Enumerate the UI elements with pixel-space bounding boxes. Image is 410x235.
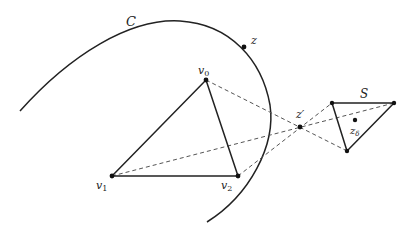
point-z-prime <box>298 125 303 130</box>
dashed-ray-v1 <box>112 103 394 176</box>
point-v2 <box>236 174 241 179</box>
point-s-a <box>330 101 334 105</box>
dashed-ray-v0 <box>206 80 347 151</box>
label-z-prime: z′ <box>295 108 305 121</box>
point-z-delta <box>353 118 357 122</box>
label-z: z <box>250 34 257 47</box>
triangle-v <box>112 80 238 176</box>
label-v1: v1 <box>96 179 107 193</box>
label-curve-c: C <box>126 14 136 29</box>
label-z-delta: zδ <box>349 125 360 138</box>
label-s: S <box>360 87 368 101</box>
point-s-b <box>392 101 396 105</box>
point-v0 <box>204 78 209 83</box>
triangle-s <box>332 103 394 151</box>
curve-c <box>20 21 271 222</box>
label-v0: v0 <box>198 64 209 78</box>
dashed-ray-v2 <box>238 103 332 176</box>
point-v1 <box>110 174 115 179</box>
point-s-c <box>345 149 349 153</box>
diagram-canvas: C z v0 v1 v2 z′ S zδ <box>0 0 410 235</box>
point-z <box>242 45 247 50</box>
label-v2: v2 <box>221 179 232 193</box>
